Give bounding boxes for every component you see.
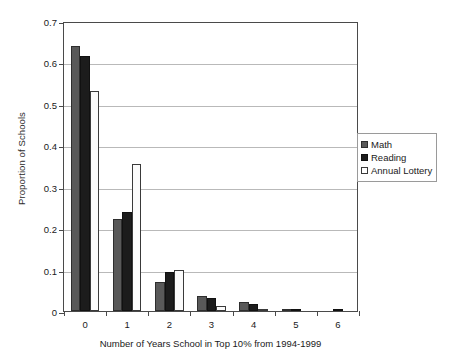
gridline — [64, 272, 357, 273]
bar-math-2 — [155, 282, 165, 311]
x-tick-mark — [106, 311, 107, 316]
legend-label: Reading — [371, 152, 406, 164]
x-tick-label: 0 — [82, 319, 87, 330]
bar-reading-2 — [165, 272, 175, 311]
x-tick-label: 5 — [293, 319, 298, 330]
x-tick-label: 1 — [125, 319, 130, 330]
legend-label: Annual Lottery — [371, 165, 432, 177]
bar-annual-lottery-2 — [174, 270, 184, 311]
bar-math-5 — [282, 309, 292, 311]
y-tick-mark — [59, 230, 64, 231]
chart-legend: MathReadingAnnual Lottery — [357, 133, 437, 182]
bar-reading-0 — [80, 56, 90, 311]
legend-label: Math — [371, 139, 392, 151]
legend-item-math[interactable]: Math — [361, 138, 432, 151]
bar-math-1 — [113, 219, 123, 311]
gridline — [64, 64, 357, 65]
gridline — [64, 230, 357, 231]
x-tick-label: 6 — [335, 319, 340, 330]
legend-item-reading[interactable]: Reading — [361, 151, 432, 164]
y-tick-label: 0.6 — [44, 58, 57, 69]
legend-swatch-reading-icon — [361, 154, 368, 161]
y-tick-label: 0.4 — [44, 141, 57, 152]
gridline — [64, 106, 357, 107]
y-tick-mark — [59, 189, 64, 190]
x-tick-mark — [190, 311, 191, 316]
x-axis-title: Number of Years School in Top 10% from 1… — [63, 338, 358, 349]
x-tick-mark — [359, 311, 360, 316]
plot-area: 00.10.20.30.40.50.60.70123456 — [63, 22, 358, 312]
bar-annual-lottery-4 — [258, 309, 268, 311]
bar-annual-lottery-0 — [90, 91, 100, 311]
y-tick-label: 0.3 — [44, 183, 57, 194]
legend-swatch-math-icon — [361, 141, 368, 148]
y-tick-label: 0.2 — [44, 224, 57, 235]
bar-reading-1 — [122, 212, 132, 311]
bar-reading-6 — [333, 309, 343, 311]
bar-math-3 — [197, 296, 207, 311]
x-tick-label: 3 — [209, 319, 214, 330]
x-tick-label: 2 — [167, 319, 172, 330]
x-tick-mark — [317, 311, 318, 316]
y-tick-mark — [59, 23, 64, 24]
y-tick-mark — [59, 272, 64, 273]
bar-reading-5 — [291, 309, 301, 311]
y-tick-label: 0.1 — [44, 266, 57, 277]
x-tick-mark — [64, 311, 65, 316]
gridline — [64, 189, 357, 190]
bar-annual-lottery-1 — [132, 164, 142, 311]
legend-item-lottery[interactable]: Annual Lottery — [361, 164, 432, 177]
y-tick-label: 0.7 — [44, 17, 57, 28]
bar-math-0 — [71, 46, 81, 311]
x-tick-label: 4 — [251, 319, 256, 330]
x-tick-mark — [275, 311, 276, 316]
x-tick-mark — [148, 311, 149, 316]
legend-swatch-lottery-icon — [361, 167, 368, 174]
bar-chart-figure: Proportion of Schools 00.10.20.30.40.50.… — [0, 0, 455, 363]
y-tick-mark — [59, 147, 64, 148]
gridline — [64, 147, 357, 148]
y-tick-label: 0.5 — [44, 100, 57, 111]
plot-inner — [64, 23, 357, 311]
y-tick-mark — [59, 106, 64, 107]
bar-reading-3 — [207, 298, 217, 311]
bar-annual-lottery-3 — [216, 306, 226, 311]
y-tick-label: 0 — [52, 307, 57, 318]
y-tick-mark — [59, 64, 64, 65]
x-tick-mark — [233, 311, 234, 316]
y-axis-title: Proportion of Schools — [16, 59, 27, 259]
bar-math-4 — [239, 302, 249, 311]
bar-reading-4 — [249, 304, 259, 311]
